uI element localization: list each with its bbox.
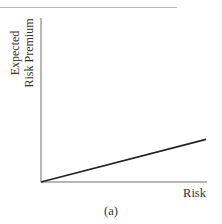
risk-premium-line <box>41 139 206 182</box>
figure-caption: (a) <box>0 204 222 219</box>
x-axis-label: Risk <box>183 186 206 201</box>
